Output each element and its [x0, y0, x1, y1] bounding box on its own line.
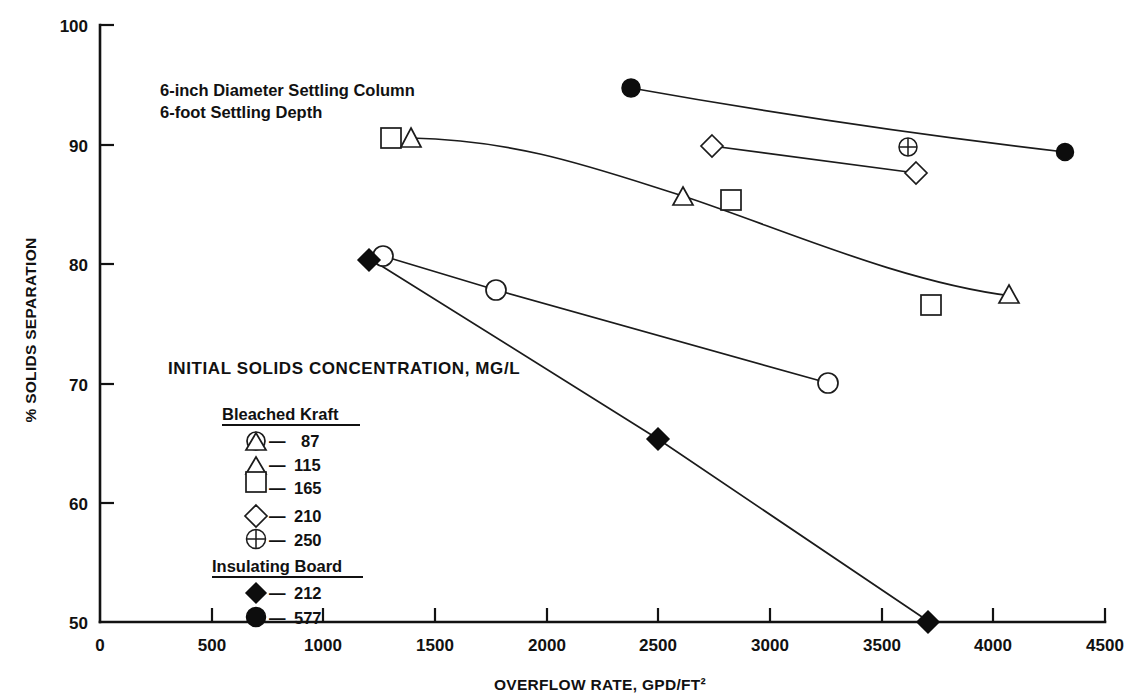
x-tick-label-3000: 3000 — [751, 636, 789, 655]
data-point-165-3 — [921, 295, 941, 315]
legend: Bleached Kraft — 87 — 115 — 16 — [212, 405, 363, 627]
legend-group-heading-insulating-board: Insulating Board — [212, 557, 342, 575]
legend-dash-212: — — [269, 584, 286, 602]
legend-value-115: 115 — [294, 456, 321, 474]
series-line-577 — [631, 88, 1065, 152]
x-tick-label-4000: 4000 — [974, 636, 1012, 655]
y-tick-label-90: 90 — [69, 137, 88, 156]
series-line-115-165 — [411, 138, 1012, 296]
legend-value-165: 165 — [294, 479, 322, 497]
legend-value-250: 250 — [294, 531, 322, 549]
legend-item-250[interactable]: — 250 — [246, 529, 322, 549]
markers-250 — [899, 138, 917, 156]
x-axis-title: OVERFLOW RATE, GPD/FT² — [494, 676, 706, 693]
solids-separation-chart: 100 90 80 70 60 50 0 500 1000 1500 2000 … — [0, 0, 1138, 700]
x-tick-label-0: 0 — [95, 636, 104, 655]
legend-dash-165: — — [269, 479, 286, 497]
note-line-1: 6-inch Diameter Settling Column — [160, 81, 415, 99]
filled-circle-icon — [247, 608, 266, 627]
data-point-577-2 — [1057, 144, 1074, 161]
y-axis-title: % SOLIDS SEPARATION — [22, 237, 39, 422]
open-square-icon — [246, 472, 266, 492]
data-point-212-3 — [917, 611, 939, 633]
y-tick-label-50: 50 — [69, 614, 88, 633]
y-tick-label-60: 60 — [69, 495, 88, 514]
y-tick-label-70: 70 — [69, 376, 88, 395]
legend-dash-210: — — [269, 507, 286, 525]
y-tick-label-80: 80 — [69, 256, 88, 275]
x-tick-labels: 0 500 1000 1500 2000 2500 3000 3500 4000… — [95, 636, 1124, 655]
legend-dash-250: — — [269, 531, 286, 549]
series-lines — [372, 88, 1065, 621]
x-tick-label-2500: 2500 — [639, 636, 677, 655]
x-tick-label-4500: 4500 — [1086, 636, 1124, 655]
data-point-87-3 — [818, 373, 838, 393]
data-point-577-1 — [622, 79, 640, 97]
legend-group-heading-bleached-kraft: Bleached Kraft — [222, 405, 339, 423]
legend-dash-115: — — [269, 456, 286, 474]
y-ticks — [100, 145, 114, 503]
series-line-210 — [712, 146, 916, 173]
y-tick-label-100: 100 — [60, 17, 88, 36]
data-point-165-2 — [721, 190, 741, 210]
data-point-165-1 — [381, 128, 401, 148]
data-point-210-2 — [905, 162, 927, 184]
y-tick-labels: 100 90 80 70 60 50 — [60, 17, 88, 633]
legend-value-577: 577 — [294, 609, 322, 627]
markers-165 — [381, 128, 941, 315]
data-point-210-1 — [701, 135, 723, 157]
concentration-label: INITIAL SOLIDS CONCENTRATION, MG/L — [168, 359, 520, 378]
data-point-212-2 — [647, 428, 669, 450]
legend-item-210[interactable]: — 210 — [245, 505, 322, 527]
x-tick-label-1000: 1000 — [304, 636, 342, 655]
x-tick-label-1500: 1500 — [416, 636, 454, 655]
open-diamond-icon — [245, 505, 267, 527]
data-point-87-2 — [486, 280, 506, 300]
x-tick-label-2000: 2000 — [528, 636, 566, 655]
legend-value-212: 212 — [294, 584, 322, 602]
legend-value-87: 87 — [301, 432, 319, 450]
x-ticks — [212, 608, 993, 622]
legend-value-210: 210 — [294, 507, 322, 525]
x-tick-label-500: 500 — [198, 636, 226, 655]
legend-dash-577: — — [269, 609, 286, 627]
markers-577 — [622, 79, 1074, 161]
legend-dash-87: — — [269, 432, 286, 450]
note-line-2: 6-foot Settling Depth — [160, 103, 322, 121]
legend-item-577[interactable]: — 577 — [247, 608, 322, 628]
data-point-115-2 — [673, 187, 693, 205]
x-tick-label-3500: 3500 — [863, 636, 901, 655]
chart-page: 100 90 80 70 60 50 0 500 1000 1500 2000 … — [0, 0, 1138, 700]
legend-item-212[interactable]: — 212 — [246, 583, 322, 603]
legend-item-165[interactable]: — 165 — [246, 472, 322, 497]
filled-diamond-icon — [246, 583, 266, 603]
